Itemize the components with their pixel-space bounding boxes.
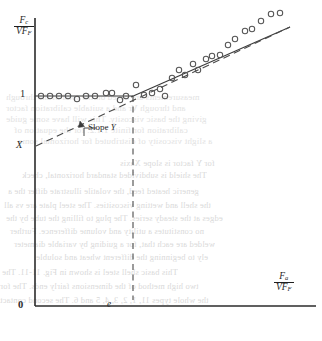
data-point xyxy=(258,18,263,23)
x-axis-label-numerator: Fa xyxy=(274,272,294,282)
data-point xyxy=(103,90,108,95)
data-point xyxy=(109,90,114,95)
origin-label: 0 xyxy=(18,299,23,310)
data-point xyxy=(162,93,167,98)
y-axis-label-numerator: Fc xyxy=(14,16,34,26)
slope-symbol: Y xyxy=(111,122,116,132)
y-intercept-label: X xyxy=(16,139,22,150)
x-axis-label-denominator: VFF xyxy=(274,282,294,293)
figure-canvas: measurements are based on the total of t… xyxy=(0,0,322,341)
data-point xyxy=(190,61,195,66)
slope-annotation-label: Slope Y xyxy=(88,122,116,132)
y-tick-one: 1 xyxy=(20,88,25,99)
data-point xyxy=(117,97,122,102)
data-point xyxy=(176,67,181,72)
y-axis-label: Fc VFF xyxy=(14,16,34,36)
data-point xyxy=(277,10,282,15)
y-axis-label-denominator: VFF xyxy=(14,26,34,37)
slope-prefix: Slope xyxy=(88,122,111,132)
x-break-label: e xyxy=(107,299,111,309)
data-point xyxy=(242,28,247,33)
x-axis-label: Fa VFF xyxy=(274,272,294,292)
data-point xyxy=(232,36,237,41)
data-point xyxy=(268,11,273,16)
data-point xyxy=(225,42,230,47)
extrapolated-slope-line xyxy=(36,27,290,146)
data-point xyxy=(74,96,79,101)
data-point xyxy=(157,86,162,91)
data-point xyxy=(203,56,208,61)
data-point-group xyxy=(38,10,282,102)
data-point xyxy=(209,53,214,58)
fitted-rising-line xyxy=(131,27,290,97)
data-point xyxy=(249,26,254,31)
data-point xyxy=(133,82,138,87)
data-point xyxy=(217,52,222,57)
